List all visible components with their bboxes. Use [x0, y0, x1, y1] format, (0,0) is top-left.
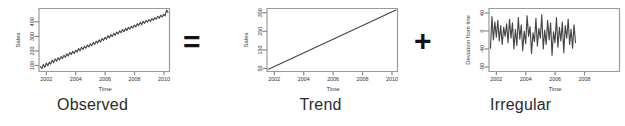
- observed-yaxis-title: Sales: [15, 32, 21, 47]
- equals-operator-icon: =: [183, 27, 201, 57]
- observed-yticks: 100 200 300 400: [29, 17, 39, 70]
- observed-xticks: 2002 2004 2006 2008 2010: [40, 72, 170, 83]
- irregular-xaxis-title: Time: [548, 86, 562, 92]
- irregular-series-path: [490, 15, 575, 56]
- trend-ytick-label: 250: [257, 27, 263, 36]
- trend-axes: 50 150 250 350 2002 2004 2006: [243, 8, 398, 92]
- trend-series-path: [268, 10, 396, 69]
- panel-observed: 100 200 300 400 2002 2004 2006: [0, 0, 185, 126]
- observed-ytick-label: 400: [29, 17, 35, 26]
- irregular-yticks: -80 -40 0 40: [479, 10, 489, 71]
- irregular-ytick-label: -40: [479, 45, 485, 53]
- trend-xtick-label: 2002: [268, 76, 280, 82]
- irregular-yaxis-title: Deviation from line: [465, 14, 471, 64]
- irregular-xticks: 2002 2004 2006 2008: [490, 72, 590, 83]
- observed-plot: 100 200 300 400 2002 2004 2006: [0, 4, 180, 94]
- trend-xtick-label: 2010: [386, 76, 398, 82]
- observed-ytick-label: 100: [29, 61, 35, 70]
- trend-yticks: 50 150 250 350: [257, 8, 267, 71]
- irregular-ytick-label: -80: [479, 63, 485, 71]
- trend-ytick-label: 150: [257, 45, 263, 54]
- observed-xtick-label: 2008: [129, 76, 141, 82]
- trend-xaxis-title: Time: [326, 86, 340, 92]
- irregular-chart-svg: -80 -40 0 40 2002 2004 2006 2008: [450, 4, 625, 94]
- observed-ytick-label: 200: [29, 46, 35, 55]
- irregular-xtick-label: 2008: [579, 76, 591, 82]
- observed-xtick-label: 2010: [158, 76, 170, 82]
- observed-xtick-label: 2004: [70, 76, 82, 82]
- irregular-ytick-label: 40: [479, 10, 485, 16]
- observed-xtick-label: 2006: [99, 76, 111, 82]
- trend-ytick-label: 50: [257, 66, 263, 72]
- irregular-xtick-label: 2002: [490, 76, 502, 82]
- irregular-xtick-label: 2004: [520, 76, 532, 82]
- panel-caption-observed: Observed: [0, 96, 185, 114]
- trend-chart-svg: 50 150 250 350 2002 2004 2006: [228, 4, 408, 94]
- panel-caption-trend: Trend: [228, 96, 413, 114]
- trend-yaxis-title: Sales: [243, 32, 249, 47]
- trend-xtick-label: 2004: [298, 76, 310, 82]
- observed-ytick-label: 300: [29, 32, 35, 41]
- panel-trend: 50 150 250 350 2002 2004 2006: [228, 0, 413, 126]
- observed-series-path: [40, 10, 168, 68]
- irregular-plot: -80 -40 0 40 2002 2004 2006 2008: [450, 4, 625, 94]
- trend-xtick-label: 2006: [327, 76, 339, 82]
- trend-plot: 50 150 250 350 2002 2004 2006: [228, 4, 408, 94]
- observed-xtick-label: 2002: [40, 76, 52, 82]
- observed-xaxis-title: Time: [98, 86, 112, 92]
- irregular-ytick-label: 0: [479, 30, 485, 33]
- trend-xticks: 2002 2004 2006 2008 2010: [268, 72, 398, 83]
- panel-caption-irregular: Irregular: [450, 96, 625, 114]
- trend-xtick-label: 2008: [357, 76, 369, 82]
- observed-chart-svg: 100 200 300 400 2002 2004 2006: [0, 4, 180, 94]
- trend-ytick-label: 350: [257, 8, 263, 17]
- irregular-xtick-label: 2006: [549, 76, 561, 82]
- plus-operator-icon: +: [414, 26, 432, 56]
- panel-irregular: -80 -40 0 40 2002 2004 2006 2008: [450, 0, 625, 126]
